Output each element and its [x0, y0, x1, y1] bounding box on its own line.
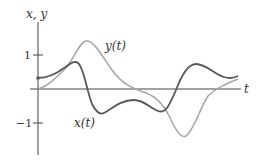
x-start-point	[36, 76, 40, 80]
tick-label-1: 1	[24, 49, 31, 62]
x-curve	[38, 62, 238, 114]
tick-label-neg1: −1	[16, 117, 32, 130]
t-axis-label: t	[244, 82, 249, 96]
x-curve-label: x(t)	[74, 116, 95, 130]
chart: x, y t 1 −1 y(t) x(t)	[0, 0, 260, 161]
y-axis-label: x, y	[26, 7, 47, 21]
y-curve-label: y(t)	[104, 39, 126, 53]
